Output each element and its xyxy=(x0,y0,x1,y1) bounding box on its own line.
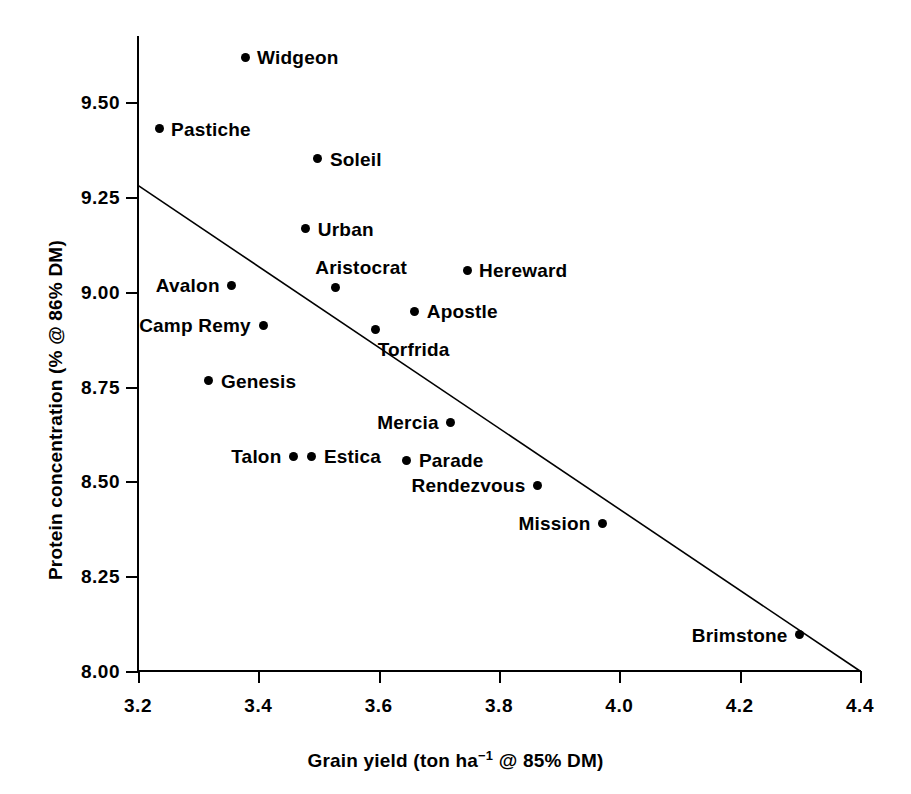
data-point-label: Camp Remy xyxy=(139,316,251,335)
data-point-label: Avalon xyxy=(156,276,220,295)
data-point-label: Torfrida xyxy=(378,340,450,359)
y-axis-title: Protein concentration (% @ 86% DM) xyxy=(46,240,65,580)
x-tick-mark xyxy=(619,671,621,683)
y-tick-mark xyxy=(126,102,138,104)
data-point-label: Urban xyxy=(318,220,374,239)
x-axis-title-exponent: −1 xyxy=(478,748,493,763)
data-point-label: Mercia xyxy=(377,413,438,432)
data-point-label: Hereward xyxy=(479,261,567,280)
data-point-label: Parade xyxy=(419,451,484,470)
data-point[interactable] xyxy=(259,321,268,330)
data-point-label: Apostle xyxy=(427,302,498,321)
data-point[interactable] xyxy=(533,481,542,490)
y-tick-mark xyxy=(126,292,138,294)
x-tick-label: 4.2 xyxy=(700,696,780,715)
data-point-label: Soleil xyxy=(330,150,382,169)
data-point[interactable] xyxy=(289,452,298,461)
data-point-label: Pastiche xyxy=(171,120,251,139)
data-point[interactable] xyxy=(446,418,455,427)
y-tick-mark xyxy=(126,387,138,389)
trend-line xyxy=(0,0,911,794)
x-tick-label: 3.2 xyxy=(98,696,178,715)
y-tick-label: 9.25 xyxy=(40,188,120,207)
data-point[interactable] xyxy=(463,266,472,275)
y-tick-label: 9.50 xyxy=(40,93,120,112)
x-tick-label: 4.0 xyxy=(579,696,659,715)
x-tick-mark xyxy=(499,671,501,683)
scatter-chart: 9.509.259.008.758.508.258.00 3.23.43.63.… xyxy=(0,0,911,794)
x-tick-mark xyxy=(860,671,862,683)
data-point[interactable] xyxy=(331,283,340,292)
y-tick-label: 8.00 xyxy=(40,662,120,681)
y-tick-mark xyxy=(126,671,138,673)
x-tick-mark xyxy=(138,671,140,683)
x-tick-mark xyxy=(258,671,260,683)
data-point-label: Genesis xyxy=(221,372,296,391)
data-point-label: Rendezvous xyxy=(412,476,526,495)
x-axis-title-pre: Grain yield (ton ha xyxy=(307,750,478,771)
x-axis-title: Grain yield (ton ha−1 @ 85% DM) xyxy=(0,750,911,770)
x-tick-mark xyxy=(740,671,742,683)
data-point-label: Mission xyxy=(518,514,590,533)
data-point[interactable] xyxy=(155,124,164,133)
data-point-label: Aristocrat xyxy=(315,258,407,277)
x-tick-label: 3.8 xyxy=(459,696,539,715)
data-point-label: Estica xyxy=(324,447,381,466)
data-point-label: Widgeon xyxy=(257,48,338,67)
x-tick-label: 4.4 xyxy=(820,696,900,715)
data-point-label: Talon xyxy=(231,447,281,466)
data-point[interactable] xyxy=(241,53,250,62)
data-point[interactable] xyxy=(598,519,607,528)
data-point-label: Brimstone xyxy=(692,626,788,645)
x-tick-label: 3.6 xyxy=(339,696,419,715)
x-tick-mark xyxy=(379,671,381,683)
x-tick-label: 3.4 xyxy=(218,696,298,715)
y-tick-mark xyxy=(126,576,138,578)
x-axis-title-post: @ 85% DM) xyxy=(493,750,603,771)
y-tick-mark xyxy=(126,197,138,199)
y-tick-mark xyxy=(126,481,138,483)
